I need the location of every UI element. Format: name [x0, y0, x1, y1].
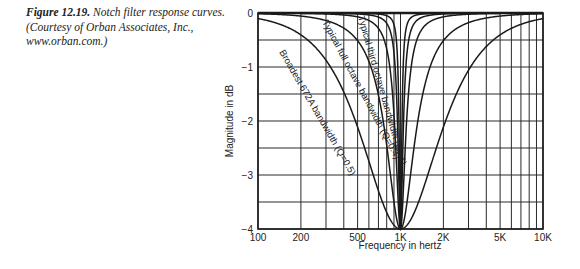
- y-tick-label: −1: [242, 62, 254, 73]
- curve-labels: Broadest 672A bandwidth (Q=0.5)Typical f…: [277, 15, 409, 178]
- y-axis-label: Magnitude in dB: [224, 85, 235, 158]
- x-tick-label: 200: [293, 232, 310, 243]
- y-tick-label: 0: [247, 8, 253, 19]
- notch-response-chart: 1002005001K2K5K10K 0−1−2−3−4 Frequency i…: [0, 0, 580, 269]
- y-tick-label: −2: [242, 116, 254, 127]
- x-tick-label: 10K: [534, 232, 552, 243]
- y-tick-labels: 0−1−2−3−4: [242, 8, 254, 235]
- x-tick-label: 5K: [494, 232, 507, 243]
- y-tick-label: −3: [242, 170, 254, 181]
- y-tick-label: −4: [242, 224, 254, 235]
- x-axis-label: Frequency in hertz: [359, 240, 442, 251]
